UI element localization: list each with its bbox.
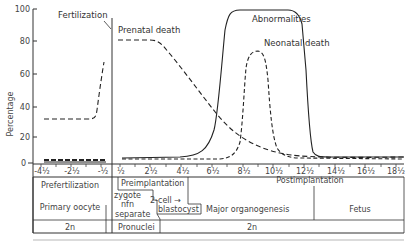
xtick: -½ (98, 167, 109, 176)
ytick-80: 80 (20, 37, 30, 46)
ytick-60: 60 (20, 70, 30, 79)
abnormalities-label: Abnormalities (252, 14, 311, 24)
xtick: 16½ (357, 167, 375, 176)
chart: 100 80 60 40 20 0 Percentage Fertilizati… (0, 0, 409, 241)
2n-right-label: 2n (247, 223, 257, 232)
pronuclei-step (157, 214, 160, 233)
xtick: 10½ (265, 167, 283, 176)
blastocyst-label: blastocyst (158, 205, 199, 214)
major-organogenesis-label: Major organogenesis (206, 205, 289, 214)
xtick: -4½ (34, 167, 50, 176)
xtick: -2½ (64, 167, 80, 176)
xtick: 12½ (296, 167, 314, 176)
xtick: 8½ (238, 167, 251, 176)
primary-oocyte-label: Primary oocyte (40, 203, 101, 212)
ytick-100: 100 (15, 5, 30, 14)
series-neonatal-death (122, 51, 404, 159)
ytick-20: 20 (20, 133, 30, 142)
2n-left-label: 2n (65, 223, 75, 232)
xtick: ½ (117, 167, 125, 176)
xtick: 18½ (387, 167, 405, 176)
ytick-0: 0 (21, 159, 26, 168)
fertilization-arrow (104, 21, 111, 29)
series-prenatal-death (44, 40, 404, 157)
prefertilization-label: Prefertilization (41, 181, 99, 190)
xtick: 6½ (207, 167, 220, 176)
preimplantation-label: Preimplantation (121, 179, 184, 188)
ytick-40: 40 (20, 103, 30, 112)
nfn-label: nfn (121, 200, 134, 209)
prenatal-death-label: Prenatal death (118, 25, 180, 35)
separate-label: separate (115, 210, 150, 219)
xtick: 14½ (327, 167, 345, 176)
xtick: 4½ (177, 167, 190, 176)
y-axis-label: Percentage (6, 91, 15, 136)
neonatal-death-label: Neonatal death (264, 38, 330, 48)
postimplantation-label: Postimplantation (276, 176, 343, 185)
zygote-label: zygote (114, 191, 141, 200)
xtick: 2½ (145, 167, 158, 176)
two-cell-label: 2-cell → (150, 196, 181, 205)
pronuclei-label: Pronuclei (118, 223, 155, 232)
fertilization-label: Fertilization (58, 10, 108, 20)
fetus-label: Fetus (349, 205, 370, 214)
